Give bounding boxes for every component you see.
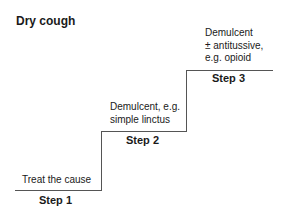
- step-2-text: Demulcent, e.g. simple linctus: [110, 101, 180, 126]
- step-1-text: Treat the cause: [22, 174, 91, 187]
- diagram-title: Dry cough: [16, 14, 75, 28]
- step-1-riser: [101, 131, 102, 191]
- step-1-tread: [15, 190, 102, 191]
- step-2-label: Step 2: [126, 134, 159, 146]
- step-1-label: Step 1: [39, 194, 72, 206]
- step-2-tread: [101, 131, 187, 132]
- step-3-label: Step 3: [212, 72, 245, 84]
- step-3-text: Demulcent ± antitussive, e.g. opioid: [205, 27, 263, 65]
- step-3-tread: [186, 70, 273, 71]
- step-2-riser: [186, 70, 187, 132]
